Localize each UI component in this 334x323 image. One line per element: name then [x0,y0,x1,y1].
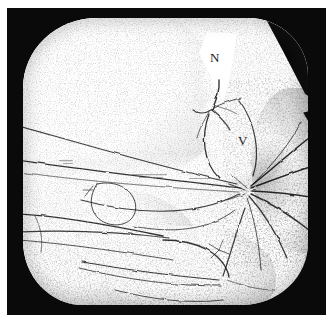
label-n: N [210,51,220,64]
region-mid-band [23,149,254,209]
region-upper-right-lobe [199,18,308,170]
figure-root: N V [0,0,334,323]
region-lower-left-lobe [23,186,202,305]
stipple-texture [23,18,308,305]
illustration-field: N V [23,18,308,305]
fold-linework [23,18,308,305]
region-lower-middle-lobe [101,226,276,305]
illustration-frame: N V [7,8,326,315]
region-n-flap [195,32,245,104]
label-v: V [238,134,248,147]
band-stipple-marks [23,18,308,305]
field-edge-shading [23,18,308,305]
dark-notch-upper-right [237,18,308,120]
dark-notch-right [285,100,308,170]
region-upper-left-lobe [23,18,223,189]
region-right-radiating-fan [251,88,308,253]
